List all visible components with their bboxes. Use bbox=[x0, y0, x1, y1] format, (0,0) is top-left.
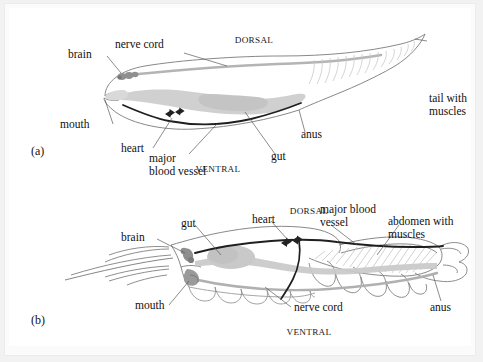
label-major-blood-vessel-a-line2: blood vessel bbox=[149, 165, 206, 177]
label-tail-with-muscles-a: tail with muscles bbox=[429, 92, 467, 117]
label-major-blood-vessel-b: major blood vessel bbox=[320, 203, 376, 228]
nerve-cord-a bbox=[127, 55, 381, 75]
label-major-blood-vessel-a-line1: major bbox=[149, 152, 176, 164]
label-mouth-b: mouth bbox=[135, 299, 164, 312]
nerve-cord-b bbox=[193, 273, 437, 290]
panel-a-label: (a) bbox=[31, 145, 44, 158]
label-nerve-cord-a: nerve cord bbox=[115, 38, 164, 51]
panel-b-label: (b) bbox=[31, 314, 45, 327]
orientation-ventral-b: VENTRAL bbox=[273, 326, 345, 339]
label-mouth-a: mouth bbox=[60, 118, 89, 131]
label-major-blood-vessel-a: major blood vessel bbox=[149, 152, 206, 177]
label-abdomen-with-muscles-b-line2: muscles bbox=[388, 228, 425, 240]
label-major-blood-vessel-b-line1: major blood bbox=[320, 203, 376, 215]
label-gut-a: gut bbox=[271, 150, 286, 163]
label-brain-b: brain bbox=[121, 231, 145, 244]
panel-a-chordate: (a) DORSAL VENTRAL brain nerve cord mout… bbox=[9, 8, 471, 183]
label-abdomen-with-muscles-b: abdomen with muscles bbox=[388, 215, 453, 240]
label-major-blood-vessel-b-line2: vessel bbox=[320, 216, 348, 228]
label-anus-b: anus bbox=[430, 301, 451, 314]
heart-organ-a bbox=[165, 108, 185, 118]
label-heart-a: heart bbox=[121, 142, 144, 155]
label-heart-b: heart bbox=[252, 213, 275, 226]
mouth-organ-b bbox=[184, 269, 199, 286]
label-tail-with-muscles-a-line1: tail with bbox=[429, 92, 467, 104]
orientation-dorsal-a: DORSAL bbox=[218, 34, 290, 47]
figure-white-panel: (a) DORSAL VENTRAL brain nerve cord mout… bbox=[9, 8, 471, 346]
label-gut-b: gut bbox=[181, 217, 196, 230]
figure-page: (a) DORSAL VENTRAL brain nerve cord mout… bbox=[0, 0, 483, 362]
brain-organ-b bbox=[181, 247, 195, 263]
label-abdomen-with-muscles-b-line1: abdomen with bbox=[388, 215, 453, 227]
antennae-b bbox=[65, 246, 173, 285]
label-brain-a: brain bbox=[68, 48, 92, 61]
label-tail-with-muscles-a-line2: muscles bbox=[429, 105, 466, 117]
panel-b-drawing bbox=[9, 183, 471, 346]
label-anus-a: anus bbox=[301, 128, 322, 141]
label-nerve-cord-b: nerve cord bbox=[294, 301, 343, 314]
panel-b-arthropod: (b) DORSAL VENTRAL brain gut heart major… bbox=[9, 183, 471, 346]
